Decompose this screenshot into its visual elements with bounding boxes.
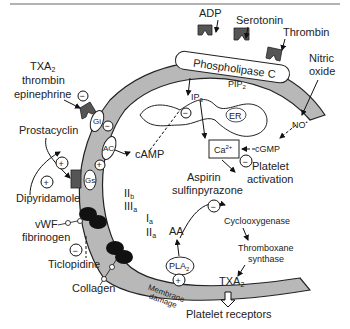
ip3-label: IP3: [191, 92, 204, 103]
svg-text:−: −: [80, 91, 85, 101]
nitric-oxide-label-1: Nitric: [309, 52, 335, 64]
gpia-label: Ia: [146, 212, 153, 225]
prostacyclin-receptor: [71, 170, 81, 188]
svg-text:+: +: [59, 159, 64, 169]
gpiia-label: IIa: [146, 226, 156, 239]
inhibit-sign-txa2: −: [78, 91, 88, 101]
adp-label: ADP: [199, 7, 222, 19]
stimulate-sign-prostacyclin: +: [56, 157, 68, 169]
nitric-oxide-label-2: oxide: [309, 65, 335, 77]
svg-text:−: −: [211, 202, 216, 212]
thromboxane-synthase-label-2: synthase: [248, 254, 284, 264]
inhibit-sign-ticlopidine: −: [70, 244, 82, 256]
dipyridamole-label: Dipyridamole: [16, 192, 80, 204]
fibrinogen-label: fibrinogen: [22, 231, 70, 243]
thrombin-agonist-label: thrombin: [22, 74, 65, 86]
svg-text:−: −: [73, 246, 78, 256]
thromboxane-synthase-label-1: Thromboxane: [238, 243, 294, 253]
platelet-receptors-label: Platelet receptors: [186, 308, 272, 320]
platelet-activation-label-1: Platelet: [252, 160, 289, 172]
er-label: ER: [229, 111, 242, 121]
thrombin-receptor: [266, 47, 282, 61]
platelet-diagram: Phospholipase C PIP2 ER IP3 Gi AC Gs PLA…: [0, 0, 350, 329]
prostacyclin-label: Prostacyclin: [19, 124, 78, 136]
serotonin-label: Serotonin: [236, 14, 283, 26]
cgmp-label: cGMP: [255, 144, 280, 154]
inhibit-sign-cgmp: −: [240, 155, 252, 167]
aa-label: AA: [169, 225, 184, 237]
gs-protein: Gs: [84, 170, 96, 190]
epinephrine-label: epinephrine: [14, 88, 72, 100]
collagen-label: Collagen: [72, 282, 115, 294]
camp-label: cAMP: [135, 148, 164, 160]
aspirin-label: Aspirin: [187, 171, 221, 183]
ticlopidine-label: Ticlopidine: [48, 258, 100, 270]
endoplasmic-reticulum: [140, 100, 267, 137]
txa2-membrane-label: TXA2: [219, 275, 244, 288]
svg-text:+: +: [44, 178, 49, 188]
stimulate-sign-pla2: +: [173, 274, 185, 286]
platelet-activation-label-2: activation: [247, 173, 293, 185]
gpiib-label: IIb: [124, 187, 134, 200]
inhibit-sign-gi: −: [103, 121, 113, 131]
svg-text:Gi: Gi: [93, 117, 101, 126]
cyclooxygenase-label: Cyclooxygenase: [224, 216, 290, 226]
svg-text:AC: AC: [103, 144, 114, 153]
inhibit-sign-ip3: −: [181, 108, 191, 118]
thrombin-label: Thrombin: [283, 26, 329, 38]
svg-text:−: −: [243, 157, 248, 167]
pla2-enzyme: PLA2: [166, 257, 194, 275]
no-label: NO•: [292, 119, 308, 130]
svg-text:Gs: Gs: [85, 176, 95, 185]
inhibit-sign-aspirin: −: [208, 200, 220, 212]
stimulate-sign-dipyridamole: +: [41, 176, 53, 188]
svg-text:−: −: [105, 121, 110, 131]
txa2-agonist-label: TXA2: [30, 60, 55, 73]
gpiiia-label: IIIa: [124, 200, 137, 213]
stimulate-sign-gs: +: [95, 160, 105, 170]
sulfinpyrazone-label: sulfinpyrazone: [172, 184, 243, 196]
svg-text:−: −: [183, 108, 188, 118]
vwf-label: vWF: [35, 218, 58, 230]
adp-receptor: [198, 25, 212, 35]
svg-text:+: +: [97, 160, 102, 170]
svg-text:+: +: [176, 276, 181, 286]
